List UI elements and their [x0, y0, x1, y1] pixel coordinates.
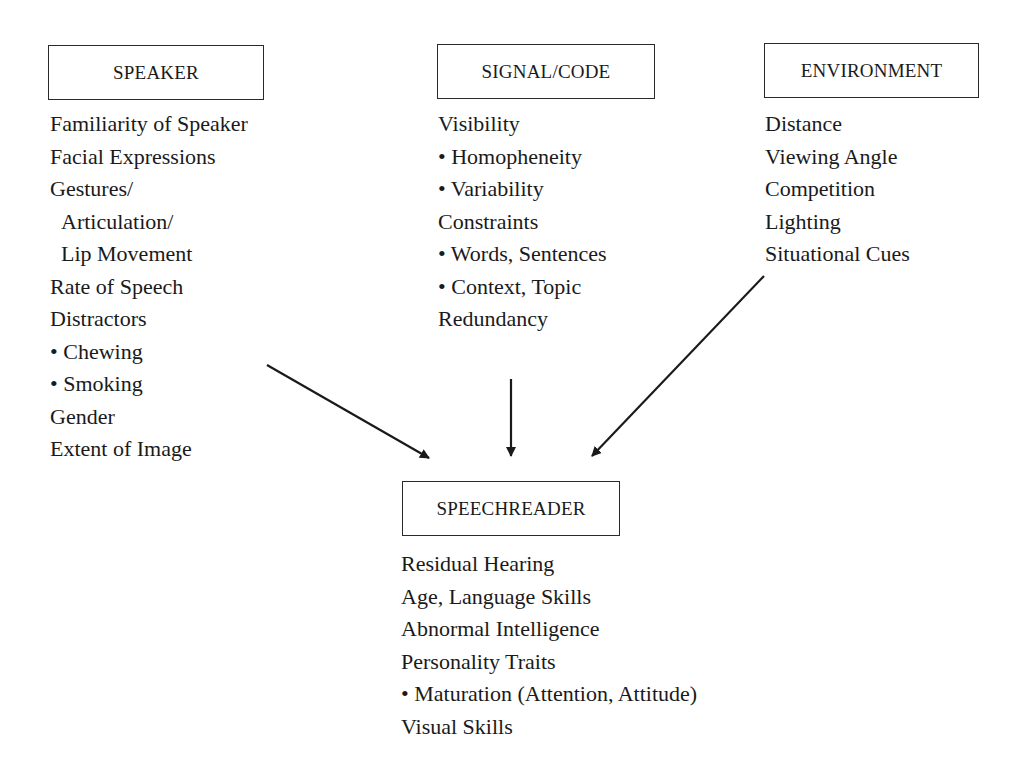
list-item: Lighting [765, 206, 910, 239]
list-item: Redundancy [438, 303, 607, 336]
speaker-factor-list: Familiarity of Speaker Facial Expression… [50, 108, 248, 466]
list-item: Abnormal Intelligence [401, 613, 697, 646]
list-item: • Homopheneity [438, 141, 607, 174]
list-item: • Variability [438, 173, 607, 206]
list-item: • Words, Sentences [438, 238, 607, 271]
list-item: Residual Hearing [401, 548, 697, 581]
speechreader-factor-list: Residual Hearing Age, Language Skills Ab… [401, 548, 697, 743]
list-item: • Context, Topic [438, 271, 607, 304]
speechreader-title: SPEECHREADER [436, 498, 585, 520]
environment-title: ENVIRONMENT [801, 60, 943, 82]
arrow-environment-to-speechreader [592, 276, 764, 456]
list-item: Distance [765, 108, 910, 141]
list-item: Gestures/ [50, 173, 248, 206]
environment-factor-list: Distance Viewing Angle Competition Light… [765, 108, 910, 271]
list-item: Viewing Angle [765, 141, 910, 174]
list-item: Visual Skills [401, 711, 697, 744]
speaker-box: SPEAKER [48, 45, 264, 100]
list-item: Rate of Speech [50, 271, 248, 304]
list-item: Familiarity of Speaker [50, 108, 248, 141]
list-item: Articulation/ [50, 206, 248, 239]
signal-code-factor-list: Visibility • Homopheneity • Variability … [438, 108, 607, 336]
arrow-speaker-to-speechreader [267, 365, 429, 458]
list-item: Extent of Image [50, 433, 248, 466]
list-item: Situational Cues [765, 238, 910, 271]
list-item: Lip Movement [50, 238, 248, 271]
list-item: Competition [765, 173, 910, 206]
list-item: Facial Expressions [50, 141, 248, 174]
list-item: Visibility [438, 108, 607, 141]
signal-code-title: SIGNAL/CODE [482, 61, 611, 83]
list-item: • Smoking [50, 368, 248, 401]
environment-box: ENVIRONMENT [764, 43, 979, 98]
speechreader-box: SPEECHREADER [402, 481, 620, 536]
list-item: • Chewing [50, 336, 248, 369]
speaker-title: SPEAKER [113, 62, 199, 84]
list-item: Gender [50, 401, 248, 434]
list-item: Personality Traits [401, 646, 697, 679]
list-item: Age, Language Skills [401, 581, 697, 614]
list-item: • Maturation (Attention, Attitude) [401, 678, 697, 711]
signal-code-box: SIGNAL/CODE [437, 44, 655, 99]
list-item: Distractors [50, 303, 248, 336]
list-item: Constraints [438, 206, 607, 239]
